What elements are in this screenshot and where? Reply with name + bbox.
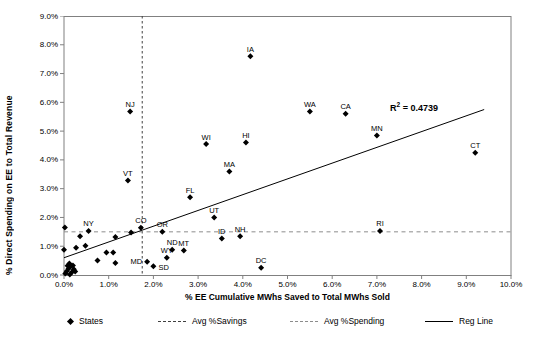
state-point (62, 225, 68, 231)
state-point-label: MA (224, 160, 235, 169)
state-point (187, 194, 193, 200)
state-point (164, 255, 170, 261)
state-point (144, 259, 150, 265)
state-point-label: MN (371, 124, 383, 133)
dashed-line-icon (158, 321, 186, 322)
state-point-label: OR (157, 220, 169, 229)
state-point-label: CT (470, 141, 480, 150)
state-point (307, 109, 313, 115)
state-point (472, 150, 478, 156)
state-point-label: FL (186, 186, 195, 195)
state-point (86, 228, 92, 234)
plot-svg: IANJWACAMNCTWIHIMAVTFLUTNYCOORIDNHRINDMT… (56, 16, 514, 282)
plot-border (64, 17, 511, 276)
state-point (159, 229, 165, 235)
state-point-label: NH (235, 225, 246, 234)
state-point-label: RI (376, 219, 384, 228)
state-point (150, 263, 156, 269)
state-point-label: WI (202, 133, 211, 142)
state-point-label: ID (218, 227, 226, 236)
x-axis-title: % EE Cumulative MWhs Saved to Total MWhs… (64, 292, 511, 302)
diamond-marker-icon (67, 317, 74, 324)
state-point-label: MT (178, 239, 189, 248)
x-axis-tick-label: 10.0% (494, 280, 528, 289)
legend-label-states: States (79, 316, 103, 326)
state-point (203, 141, 209, 147)
state-point (211, 214, 217, 220)
legend-label-avg-savings: Avg %Savings (192, 316, 247, 326)
legend-label-avg-spending: Avg %Spending (324, 316, 384, 326)
y-axis-title: % Direct Spending on EE to Total Revenue (4, 16, 14, 275)
plot-area: IANJWACAMNCTWIHIMAVTFLUTNYCOORIDNHRINDMT… (56, 16, 514, 282)
r-squared-value: = 0.4739 (400, 103, 438, 113)
legend-item-states: States (68, 314, 103, 328)
state-point (82, 243, 88, 249)
y-axis-tick-label: 4.0% (18, 155, 58, 165)
state-point-label: SD (158, 263, 169, 272)
state-point (181, 248, 187, 254)
y-axis-tick-label: 5.0% (18, 127, 58, 137)
dashed-line-icon (290, 321, 318, 322)
regression-line (64, 110, 484, 258)
y-axis-tick-label: 8.0% (18, 40, 58, 50)
legend-label-reg-line: Reg Line (459, 316, 493, 326)
state-point (110, 250, 116, 256)
state-point-label: IA (247, 45, 254, 54)
x-axis-tick-label: 0.0% (47, 280, 81, 289)
x-axis-tick-label: 2.0% (136, 280, 170, 289)
state-point (125, 178, 131, 184)
state-point (95, 258, 101, 264)
scatter-chart: % Direct Spending on EE to Total Revenue… (0, 0, 537, 350)
state-point-label: MD (130, 257, 142, 266)
legend-item-avg-spending: Avg %Spending (290, 314, 384, 328)
y-axis-tick-label: 3.0% (18, 184, 58, 194)
state-point-label: NY (83, 219, 93, 228)
y-axis-tick-label: 9.0% (18, 12, 58, 22)
state-point-label: NJ (126, 100, 135, 109)
legend-item-reg-line: Reg Line (425, 314, 493, 328)
state-point (112, 260, 118, 266)
y-axis-tick-label: 1.0% (18, 242, 58, 252)
state-point (243, 140, 249, 146)
state-point (77, 233, 83, 239)
chart-legend: States Avg %Savings Avg %Spending Reg Li… (0, 314, 537, 330)
state-point-label: WY (161, 246, 173, 255)
state-point (61, 247, 67, 253)
x-axis-tick-label: 3.0% (181, 280, 215, 289)
x-axis-tick-label: 8.0% (405, 280, 439, 289)
state-point (127, 109, 133, 115)
legend-item-avg-savings: Avg %Savings (158, 314, 247, 328)
state-point (226, 168, 232, 174)
x-axis-tick-label: 6.0% (315, 280, 349, 289)
y-axis-tick-label: 2.0% (18, 213, 58, 223)
state-point (377, 228, 383, 234)
x-axis-tick-label: 7.0% (360, 280, 394, 289)
state-point-label: CO (135, 216, 146, 225)
solid-line-icon (425, 321, 453, 322)
y-axis-tick-label: 0.0% (18, 271, 58, 281)
state-point (103, 250, 109, 256)
x-axis-tick-label: 1.0% (92, 280, 126, 289)
state-point (237, 233, 243, 239)
state-point (258, 265, 264, 271)
state-point-label: WA (304, 100, 316, 109)
state-point (73, 245, 79, 251)
r-squared-annotation: R2 = 0.4739 (390, 101, 438, 113)
state-point (343, 111, 349, 117)
state-point (374, 132, 380, 138)
y-axis-tick-label: 7.0% (18, 69, 58, 79)
state-point-label: CA (340, 102, 350, 111)
state-point-label: UT (209, 206, 219, 215)
y-axis-tick-label: 6.0% (18, 98, 58, 108)
x-axis-tick-label: 4.0% (226, 280, 260, 289)
x-axis-tick-label: 9.0% (449, 280, 483, 289)
state-point-label: VT (123, 169, 133, 178)
state-point (219, 235, 225, 241)
state-point-label: HI (242, 131, 250, 140)
x-axis-tick-label: 5.0% (271, 280, 305, 289)
state-point-label: DC (256, 256, 267, 265)
state-point (247, 53, 253, 59)
